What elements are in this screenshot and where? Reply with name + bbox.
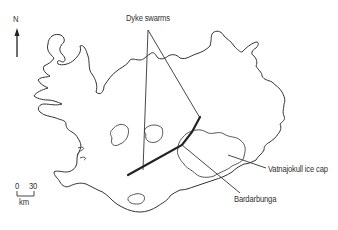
dyke-bold: [128, 117, 200, 175]
dyke-line-west: [143, 30, 148, 170]
scale-start-label: 0: [15, 181, 19, 191]
glacier-hofsjokull: [145, 125, 163, 143]
scale-bar-icon: [17, 191, 34, 196]
north-arrow-icon: [15, 28, 20, 57]
vatnajokull-label: Vatnajokull ice cap: [268, 164, 328, 174]
dyke-swarms-label: Dyke swarms: [126, 13, 170, 23]
iceland-map: [0, 0, 338, 230]
bardarbunga-leader: [182, 145, 240, 193]
scale-end-label: 30: [29, 181, 37, 191]
vatnajokull-leader: [228, 155, 266, 168]
glacier-langjokull: [111, 124, 129, 145]
glacier-myrdalsjokull: [128, 194, 145, 204]
dyke-line-north: [148, 30, 200, 118]
north-label: N: [13, 14, 18, 24]
coastline: [34, 31, 285, 212]
bardarbunga-label: Bardarbunga: [234, 194, 276, 204]
scale-unit-label: km: [19, 197, 29, 207]
